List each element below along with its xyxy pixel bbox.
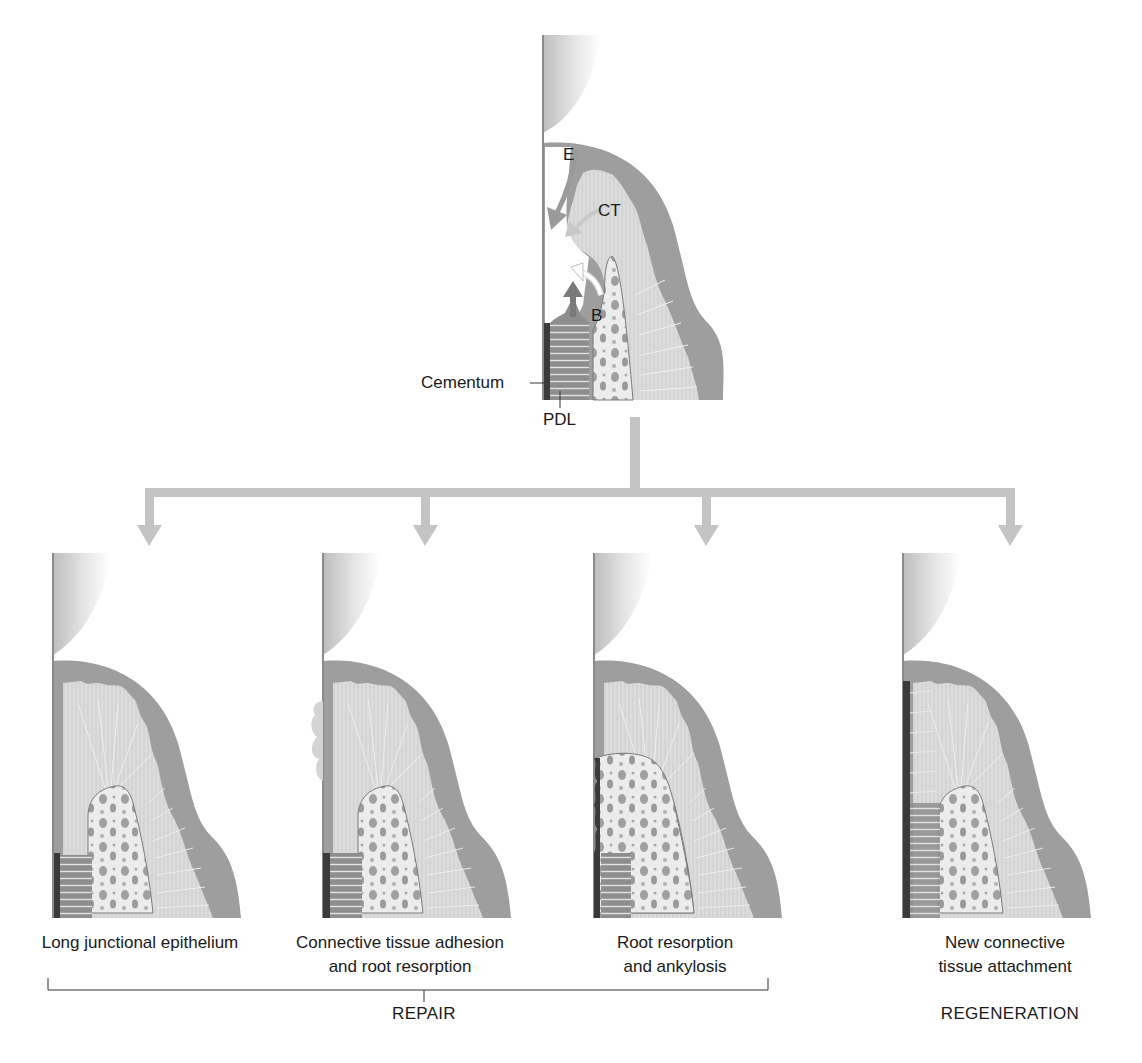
panel-new-attachment <box>903 553 1091 918</box>
panel-connective-tissue-adhesion <box>311 553 511 918</box>
group-label-repair: REPAIR <box>364 1004 484 1024</box>
label-pdl: PDL <box>543 410 576 430</box>
group-label-regeneration: REGENERATION <box>930 1004 1090 1024</box>
label-connective-tissue: CT <box>598 201 621 221</box>
caption-new-attachment: New connective tissue attachment <box>900 931 1110 979</box>
label-epithelium: E <box>563 145 574 165</box>
repair-bracket <box>48 978 768 1002</box>
panel-long-junctional-epithelium <box>53 553 241 918</box>
caption-connective-tissue-adhesion: Connective tissue adhesion and root reso… <box>265 931 535 979</box>
initial-defect-diagram <box>543 35 724 400</box>
panel-root-resorption-ankylosis <box>594 553 782 918</box>
label-cementum: Cementum <box>421 373 504 393</box>
label-bone: B <box>591 306 602 326</box>
caption-long-junctional-epithelium: Long junctional epithelium <box>20 931 260 955</box>
branching-arrows <box>137 417 1023 546</box>
caption-root-resorption-ankylosis: Root resorption and ankylosis <box>580 931 770 979</box>
